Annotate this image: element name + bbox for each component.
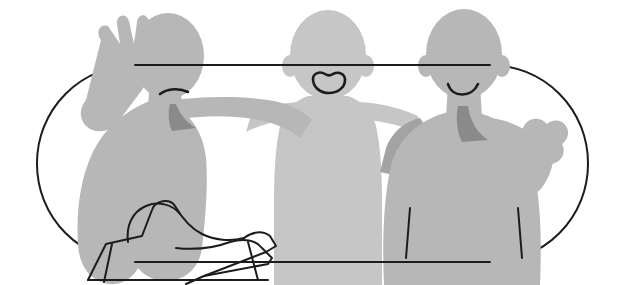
three-people-illustration: Three people standing together [0,0,632,285]
figure-right-head [426,9,502,99]
figure-middle-head [290,10,366,100]
figure-left-head [132,13,204,99]
illustration-canvas: Flat grey silhouette illustration of thr… [0,0,632,285]
